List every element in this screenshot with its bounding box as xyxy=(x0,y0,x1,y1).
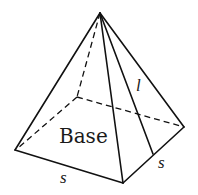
base-edge-right xyxy=(123,127,184,183)
hidden-apex-edge xyxy=(77,13,100,97)
pyramid-figure: Base l s s xyxy=(0,0,198,195)
pyramid-diagram: Base l s s xyxy=(0,0,198,195)
side-length-label-right: s xyxy=(158,153,165,172)
side-length-label-front: s xyxy=(60,168,67,187)
base-label: Base xyxy=(59,124,108,148)
hidden-base-back-edge xyxy=(77,97,184,127)
slant-height-line xyxy=(100,13,153,154)
base-edge-front xyxy=(15,150,123,183)
slant-height-label: l xyxy=(136,76,141,95)
